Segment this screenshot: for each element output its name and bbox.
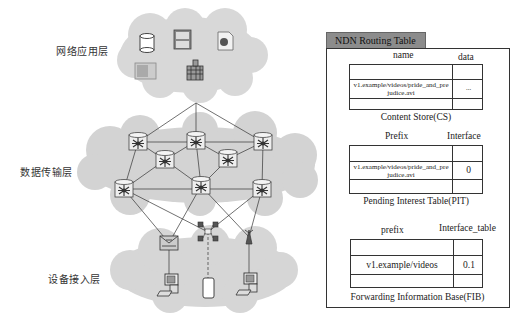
transport-cloud	[77, 111, 318, 216]
application-cloud	[117, 8, 268, 103]
application-layer-label: 网络应用层	[56, 43, 109, 58]
pending-interest-table: v1.example/videos/pride_and_pre judice.a…	[349, 145, 483, 194]
image-icon	[135, 63, 156, 79]
access-layer-label: 设备接入层	[48, 271, 101, 286]
file-cabinet-icon	[174, 30, 191, 49]
pit-header-interface: Interface	[447, 131, 481, 141]
cs-header-name: name	[393, 50, 414, 60]
pit-header-prefix: Prefix	[385, 131, 408, 141]
pit-row-name: v1.example/videos/pride_and_pre judice.a…	[350, 163, 452, 179]
cs-row-name: v1.example/videos/pride_and_pre judice.a…	[350, 81, 452, 97]
globe-document-icon	[218, 32, 233, 50]
mobile-phone-icon	[203, 278, 214, 298]
access-cloud	[110, 225, 298, 313]
pit-caption: Pending Interest Table(PIT)	[340, 196, 492, 206]
forwarding-information-base-table: v1.example/videos 0.1	[350, 239, 483, 288]
fib-header-interface-table: Interface_table	[439, 223, 496, 233]
fib-header-prefix: prefix	[381, 225, 404, 235]
switch-icon	[160, 236, 178, 250]
fib-row-prefix: v1.example/videos	[351, 260, 453, 270]
cs-row-data: ...	[453, 84, 484, 92]
routing-table-tab: NDN Routing Table	[326, 32, 426, 48]
pit-row-interface: 0	[453, 165, 484, 175]
cs-caption: Content Store(CS)	[349, 112, 483, 122]
database-icon	[140, 34, 154, 53]
transport-layer-label: 数据传输层	[20, 164, 73, 179]
content-store-table: v1.example/videos/pride_and_pre judice.a…	[349, 64, 483, 110]
cs-header-data: data	[458, 52, 474, 62]
fib-row-interface: 0.1	[454, 260, 484, 270]
fib-caption: Forwarding Information Base(FIB)	[330, 292, 505, 302]
